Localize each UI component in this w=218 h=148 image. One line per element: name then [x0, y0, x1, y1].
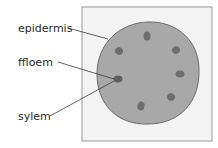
vascular-bundle — [176, 71, 185, 78]
xylem-label: sylem — [18, 110, 51, 123]
phloem-label: ffloem — [18, 56, 53, 69]
vascular-bundle — [114, 76, 123, 83]
epidermis-label: epidermis — [18, 22, 73, 35]
stem-cross-section-diagram: epidermis ffloem sylem — [0, 0, 218, 148]
vascular-bundle — [144, 32, 151, 41]
